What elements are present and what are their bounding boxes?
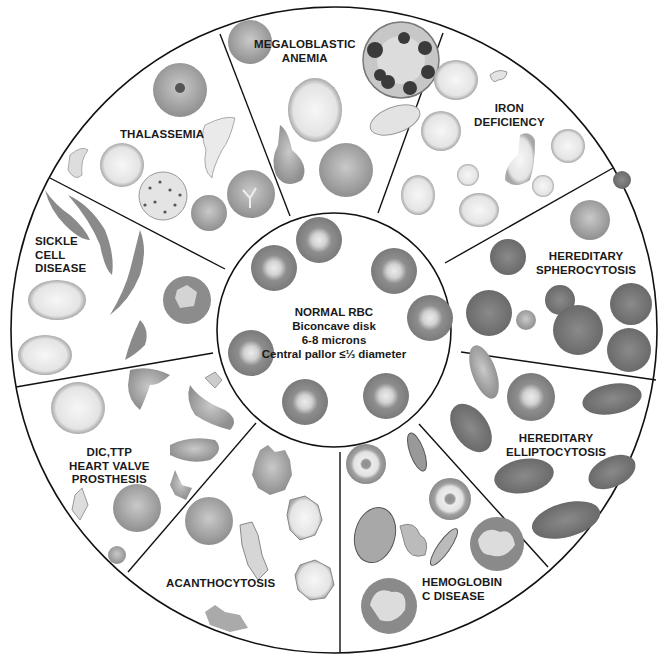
normal-rbc-pallor: Central pallor ≤⅓ diameter bbox=[234, 347, 434, 361]
normal-rbc-size: 6-8 microns bbox=[234, 333, 434, 347]
normal-rbc-title: NORMAL RBC bbox=[234, 305, 434, 319]
label-hereditary-spherocytosis: HEREDITARY SPHEROCYTOSIS bbox=[536, 250, 636, 277]
label-megaloblastic-anemia: MEGALOBLASTIC ANEMIA bbox=[254, 38, 356, 65]
normal-rbc-label: NORMAL RBC Biconcave disk 6-8 microns Ce… bbox=[234, 305, 434, 361]
label-acanthocytosis: ACANTHOCYTOSIS bbox=[166, 577, 275, 591]
label-sickle-cell-disease: SICKLE CELL DISEASE bbox=[35, 235, 86, 276]
normal-rbc-shape: Biconcave disk bbox=[234, 319, 434, 333]
label-dic-ttp-heart-valve: DIC,TTP HEART VALVE PROSTHESIS bbox=[69, 446, 150, 487]
label-iron-deficiency: IRON DEFICIENCY bbox=[474, 102, 545, 129]
label-hemoglobin-c-disease: HEMOGLOBIN C DISEASE bbox=[422, 576, 502, 603]
label-hereditary-elliptocytosis: HEREDITARY ELLIPTOCYTOSIS bbox=[506, 432, 606, 459]
label-thalassemia: THALASSEMIA bbox=[120, 128, 204, 142]
